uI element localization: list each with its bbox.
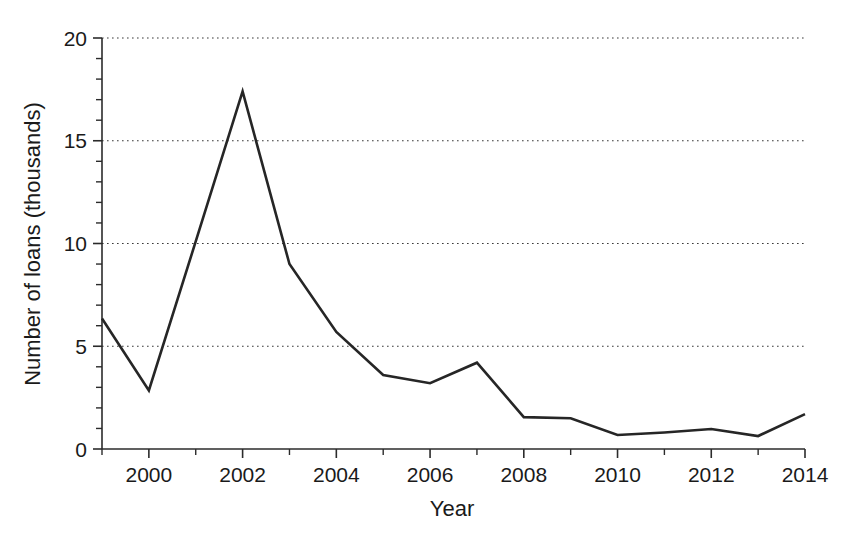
x-tick-label-2004: 2004 (313, 463, 360, 486)
x-tick-label-2014: 2014 (782, 463, 829, 486)
y-tick-label-5: 5 (75, 335, 87, 358)
x-tick-label-2000: 2000 (126, 463, 173, 486)
x-axis-title: Year (430, 496, 474, 521)
x-tick-label-2008: 2008 (500, 463, 547, 486)
y-axis-title: Number of loans (thousands) (20, 102, 45, 386)
line-chart: 05101520 2000200220042006200820102012201… (0, 0, 845, 545)
x-tick-label-2002: 2002 (219, 463, 266, 486)
chart-canvas: 05101520 2000200220042006200820102012201… (0, 0, 845, 545)
x-tick-label-2012: 2012 (688, 463, 735, 486)
x-tick-label-2006: 2006 (407, 463, 454, 486)
x-tick-label-2010: 2010 (594, 463, 641, 486)
y-tick-label-15: 15 (64, 129, 87, 152)
y-tick-label-10: 10 (64, 232, 87, 255)
y-tick-label-20: 20 (64, 27, 87, 50)
y-tick-label-0: 0 (75, 438, 87, 461)
